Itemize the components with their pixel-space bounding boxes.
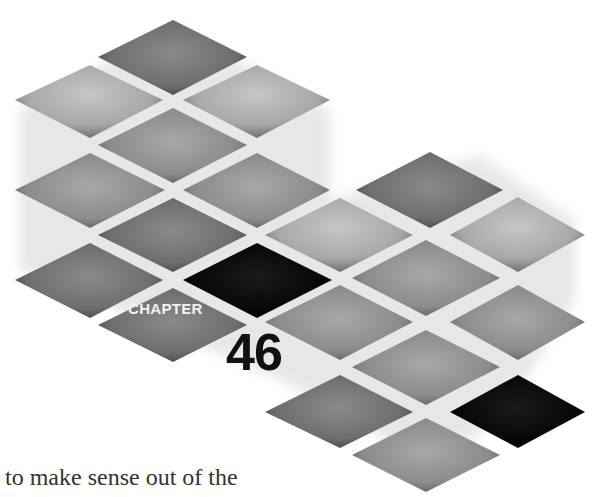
chapter-diamond-grid-illustration: [0, 0, 595, 497]
chapter-number: 46: [226, 326, 282, 378]
chapter-label: CHAPTER: [128, 300, 203, 317]
body-text-line: to make sense out of the: [5, 462, 238, 492]
